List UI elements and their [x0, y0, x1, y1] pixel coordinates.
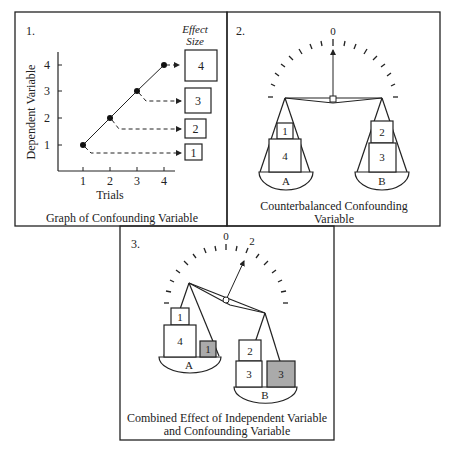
pan-b-weights — [236, 340, 295, 387]
svg-text:2: 2 — [107, 174, 113, 188]
dashed-arrows — [85, 65, 181, 153]
svg-text:3: 3 — [44, 84, 50, 98]
panel-3-caption-1: Combined Effect of Independent Variable — [127, 411, 327, 425]
dial-reading: 2 — [249, 235, 255, 247]
y-axis-label: Dependent Variable — [24, 65, 38, 160]
weight-b-shaded: 3 — [278, 368, 284, 380]
box-1: 1 — [191, 146, 197, 160]
dial-ticks — [164, 244, 288, 303]
weight-a-4: 4 — [177, 335, 183, 347]
weight-b-3: 3 — [246, 368, 252, 380]
svg-text:1: 1 — [80, 174, 86, 188]
panel-3: 3. 0 2 — [120, 226, 334, 440]
y-ticks: 4 3 2 1 — [44, 58, 62, 152]
svg-text:3: 3 — [134, 174, 140, 188]
data-line — [83, 65, 164, 145]
pan-a-label: A — [282, 175, 290, 187]
panel-2-caption-1: Counterbalanced Confounding — [260, 199, 408, 213]
panel-1-caption: Graph of Confounding Variable — [46, 211, 198, 225]
panel-2: 2. 0 — [227, 12, 440, 226]
pivot — [223, 297, 229, 303]
dial-zero: 0 — [223, 230, 229, 242]
box-2: 2 — [193, 122, 199, 136]
svg-text:4: 4 — [161, 174, 167, 188]
pan-b-label: B — [261, 389, 268, 401]
panel-3-number: 3. — [131, 237, 140, 251]
svg-text:4: 4 — [44, 58, 50, 72]
panel-1-number: 1. — [26, 24, 35, 38]
svg-text:2: 2 — [44, 111, 50, 125]
weight-a-1: 1 — [282, 125, 288, 137]
weight-b-2: 2 — [379, 126, 385, 138]
box-4: 4 — [198, 59, 204, 73]
dial-needle — [226, 261, 244, 300]
weight-a-1: 1 — [177, 311, 183, 323]
panel-1: 1. Effect Size 4 3 2 1 1 2 3 4 Trials — [15, 12, 227, 226]
box-3: 3 — [195, 94, 201, 108]
panel-2-caption-2: Variable — [314, 212, 354, 226]
pivot — [330, 96, 336, 102]
weight-b-3: 3 — [379, 151, 385, 163]
x-ticks: 1 2 3 4 — [80, 167, 167, 188]
panel-2-number: 2. — [236, 24, 245, 38]
panel-3-caption-2: and Confounding Variable — [164, 424, 290, 438]
effect-size-label: Effect — [181, 23, 209, 35]
weight-a-shaded: 1 — [205, 343, 211, 355]
weight-a-4: 4 — [282, 150, 288, 162]
figure: 1. Effect Size 4 3 2 1 1 2 3 4 Trials — [0, 0, 453, 454]
weight-b-2: 2 — [247, 345, 253, 357]
pan-a-label: A — [185, 359, 193, 371]
x-axis-label: Trials — [96, 188, 124, 202]
pan-b-label: B — [378, 175, 385, 187]
effect-size-label-2: Size — [186, 35, 204, 47]
dial-zero: 0 — [330, 25, 336, 37]
svg-text:1: 1 — [44, 138, 50, 152]
